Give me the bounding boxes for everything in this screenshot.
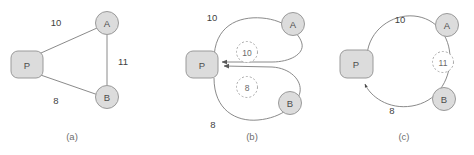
node-a-label: A [104, 18, 111, 29]
edge-p-a [32, 24, 106, 57]
panel-c: 11 A B P 10 8 (c) [340, 14, 459, 142]
node-p-label: P [24, 60, 30, 71]
ghost-node-10-label: 10 [242, 48, 252, 58]
ghost-node-11: 11 [433, 52, 454, 73]
edge-label-loop-top: 10 [395, 14, 406, 25]
node-p[interactable]: P [340, 50, 373, 78]
panel-a: P A B 10 11 8 (a) [11, 12, 128, 142]
ghost-node-8: 8 [237, 77, 258, 98]
node-b-label: B [441, 94, 447, 105]
node-p-label: P [199, 60, 205, 71]
caption-panel-b: (b) [246, 131, 258, 142]
edge-label-arc-a: 10 [207, 12, 218, 23]
node-p[interactable]: P [186, 51, 218, 78]
edge-label-a-b: 11 [118, 56, 128, 67]
ghost-node-10: 10 [237, 42, 258, 63]
node-a[interactable]: A [282, 13, 305, 36]
edge-label-p-b: 8 [53, 95, 58, 106]
node-b-label: B [104, 92, 110, 103]
edge-p-b [32, 72, 104, 97]
node-b[interactable]: B [96, 86, 119, 109]
node-b-label: B [287, 98, 293, 109]
ghost-node-11-label: 11 [439, 58, 448, 68]
node-p[interactable]: P [11, 51, 43, 78]
node-a-label: A [290, 19, 297, 30]
edge-label-loop-bottom: 8 [389, 105, 394, 116]
panel-b: 10 8 A B P 10 8 [186, 12, 368, 142]
node-a-label: A [444, 20, 451, 31]
node-p-label: P [353, 59, 359, 70]
caption-panel-a: (a) [66, 131, 78, 142]
node-a[interactable]: A [96, 12, 119, 35]
figure-container: P A B 10 11 8 (a) [0, 0, 474, 155]
node-a[interactable]: A [436, 14, 459, 37]
caption-panel-c: (c) [398, 131, 409, 142]
edge-label-arc-b: 8 [210, 119, 215, 130]
ghost-node-8-label: 8 [245, 83, 250, 93]
diagram-canvas: P A B 10 11 8 (a) [0, 0, 474, 155]
edge-label-p-a: 10 [51, 17, 62, 28]
node-b[interactable]: B [279, 92, 302, 115]
node-b[interactable]: B [433, 88, 456, 111]
